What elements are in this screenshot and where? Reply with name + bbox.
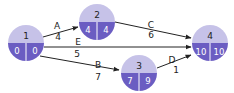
node-4: 4 10 10 [192,25,228,61]
node-3-latest: 9 [145,76,150,86]
node-1-earliest: 0 [14,46,19,56]
node-1-latest: 0 [32,46,37,56]
edge-c: C 6 [115,20,191,40]
edge-e-activity: E [75,37,81,47]
node-2-label: 2 [94,10,100,20]
node-1: 1 0 0 [8,25,44,61]
node-2-latest: 4 [103,25,108,35]
edge-a: A 4 [43,21,78,42]
edge-a-activity: A [54,21,61,31]
edge-d: D 1 [157,55,191,75]
node-1-label: 1 [23,31,29,41]
edge-b: B 7 [40,56,119,82]
network-diagram: A 4 E 5 B 7 C 6 D 1 1 0 0 [0,0,234,93]
node-3: 3 7 9 [121,55,157,91]
node-4-latest: 10 [214,47,225,57]
node-3-label: 3 [136,61,142,71]
node-4-earliest: 10 [196,47,207,57]
edge-a-duration: 4 [55,32,61,42]
edge-e-duration: 5 [74,49,80,59]
node-3-earliest: 7 [127,76,132,86]
edge-c-activity: C [148,20,154,30]
edge-d-duration: 1 [173,65,179,75]
edge-b-activity: B [95,60,101,70]
edge-b-duration: 7 [95,72,101,82]
node-2: 2 4 4 [79,4,115,40]
edge-d-activity: D [169,55,176,65]
node-2-earliest: 4 [85,25,90,35]
node-4-label: 4 [207,31,213,41]
edge-c-duration: 6 [148,30,154,40]
